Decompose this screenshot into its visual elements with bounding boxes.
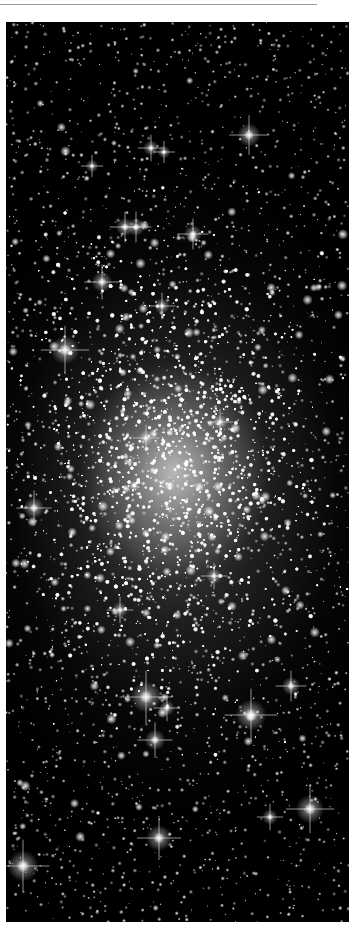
page: Dense globular star cluster with bright … — [0, 0, 349, 941]
star-cluster-image: Dense globular star cluster with bright … — [6, 22, 349, 922]
starfield — [6, 22, 349, 922]
divider-line — [0, 4, 317, 5]
